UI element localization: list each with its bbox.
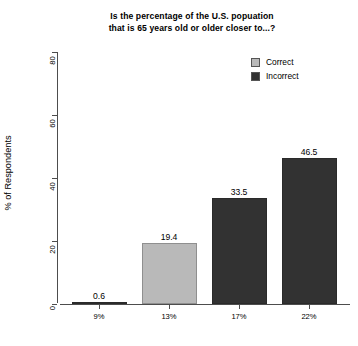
- x-axis-tick-label: 22%: [301, 312, 316, 321]
- y-axis-tick-label-wrap: 20: [51, 241, 52, 242]
- bar-value-label: 33.5: [231, 187, 248, 197]
- y-axis-tick-label: 20: [48, 245, 57, 253]
- chart-title-line-1: Is the percentage of the U.S. popuation: [42, 11, 342, 23]
- bar-value-label: 46.5: [301, 147, 318, 157]
- bar-chart-figure: Is the percentage of the U.S. popuation …: [0, 0, 358, 346]
- bar: 19.4: [142, 243, 197, 304]
- y-axis-tick: [52, 115, 57, 116]
- y-axis-tick-label-wrap: 60: [51, 115, 52, 116]
- y-axis-tick-label-wrap: 80: [51, 52, 52, 53]
- chart-title: Is the percentage of the U.S. popuation …: [42, 11, 342, 34]
- x-axis-tick-label: 9%: [94, 312, 105, 321]
- chart-title-line-2: that is 65 years old or older closer to.…: [42, 23, 342, 35]
- y-axis-tick-label: 40: [48, 182, 57, 190]
- y-axis-tick: [52, 52, 57, 53]
- x-axis-tick: [169, 304, 170, 309]
- y-axis-tick: [52, 241, 57, 242]
- x-axis-line: [60, 304, 350, 305]
- bar: 33.5: [212, 198, 267, 304]
- y-axis-tick-label-wrap: 0: [51, 304, 52, 305]
- y-axis-tick: [52, 178, 57, 179]
- x-axis-tick: [239, 304, 240, 309]
- y-axis-tick-label: 80: [48, 56, 57, 64]
- x-axis-tick-label: 17%: [231, 312, 246, 321]
- x-axis-tick: [309, 304, 310, 309]
- y-axis-tick: [52, 304, 57, 305]
- y-axis-line: [57, 52, 58, 303]
- y-axis-label: % of Respondents: [3, 135, 13, 210]
- bar-value-label: 0.6: [93, 291, 105, 301]
- y-axis-tick-label-wrap: 40: [51, 178, 52, 179]
- y-axis-tick-label: 0: [48, 306, 57, 310]
- x-axis-tick-label: 13%: [161, 312, 176, 321]
- bar: 46.5: [282, 158, 337, 304]
- y-axis-tick-label: 60: [48, 119, 57, 127]
- bar-value-label: 19.4: [161, 232, 178, 242]
- plot-area: 020406080 0.619.433.546.5 9%13%17%22%: [57, 40, 352, 308]
- x-axis-tick: [99, 304, 100, 309]
